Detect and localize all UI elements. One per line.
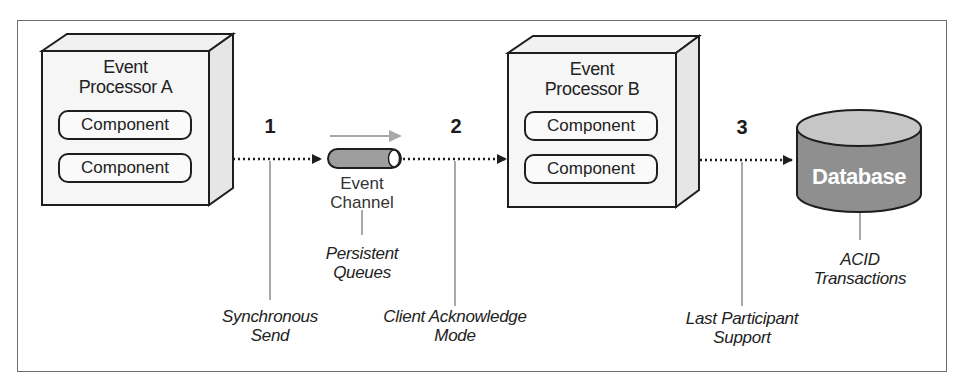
client-acknowledge-note: Client Acknowledge Mode — [365, 307, 545, 345]
flow-direction-icon — [330, 130, 402, 142]
component-label: Component — [547, 159, 635, 179]
component-label: Component — [547, 116, 635, 136]
event-channel-label-line1: Event — [312, 174, 412, 193]
processor-a-title-line2: Processor A — [42, 77, 209, 97]
database-cylinder-icon — [797, 110, 921, 212]
last-participant-note: Last Participant Support — [662, 309, 822, 347]
processor-b-component-2: Component — [524, 154, 658, 184]
database-label: Database — [797, 165, 921, 190]
step-1-note-line1: Synchronous — [200, 307, 340, 326]
processor-a-title: Event Processor A — [42, 57, 209, 97]
acid-line2: Transactions — [800, 269, 920, 288]
persistent-queues-line1: Persistent — [300, 244, 424, 263]
event-channel-pipe-icon — [328, 149, 401, 168]
step-1-number: 1 — [258, 115, 282, 137]
processor-b-component-1: Component — [524, 111, 658, 141]
step-2-number: 2 — [444, 115, 468, 137]
step-3-note-line1: Last Participant — [662, 309, 822, 328]
step-2-note-line2: Mode — [365, 326, 545, 345]
component-label: Component — [81, 158, 169, 178]
step-2-note-line1: Client Acknowledge — [365, 307, 545, 326]
processor-b-title: Event Processor B — [508, 59, 676, 99]
event-channel-label-line2: Channel — [312, 193, 412, 212]
event-channel-label: Event Channel — [312, 174, 412, 212]
processor-a-title-line1: Event — [42, 57, 209, 77]
synchronous-send-note: Synchronous Send — [200, 307, 340, 345]
persistent-queues-note: Persistent Queues — [300, 244, 424, 282]
persistent-queues-line2: Queues — [300, 263, 424, 282]
component-label: Component — [81, 115, 169, 135]
acid-transactions-note: ACID Transactions — [800, 250, 920, 288]
step-1-note-line2: Send — [200, 326, 340, 345]
step-3-number: 3 — [730, 116, 754, 138]
acid-line1: ACID — [800, 250, 920, 269]
step-3-note-line2: Support — [662, 328, 822, 347]
processor-a-component-2: Component — [58, 153, 192, 183]
processor-b-title-line1: Event — [508, 59, 676, 79]
processor-b-title-line2: Processor B — [508, 79, 676, 99]
processor-a-component-1: Component — [58, 110, 192, 140]
